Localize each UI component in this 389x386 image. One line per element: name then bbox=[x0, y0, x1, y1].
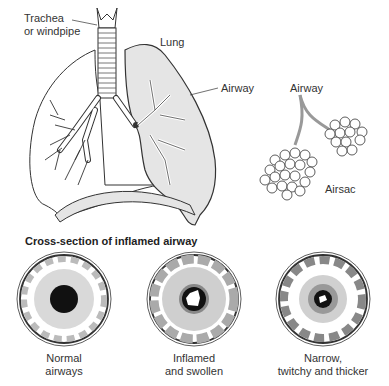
trachea-label-line2: or windpipe bbox=[24, 25, 80, 38]
cross-section-narrow bbox=[276, 252, 370, 346]
cross-section-title: Cross-section of inflamed airway bbox=[25, 235, 197, 247]
caption-inflamed-line2: and swollen bbox=[165, 365, 223, 378]
cross-section-inflamed bbox=[147, 252, 241, 346]
caption-inflamed-line1: Inflamed bbox=[173, 352, 215, 365]
caption-narrow-line1: Narrow, bbox=[304, 352, 342, 365]
caption-narrow-line2: twitchy and thicker bbox=[278, 365, 368, 378]
caption-normal-line2: airways bbox=[45, 365, 82, 378]
trachea-label-line1: Trachea bbox=[24, 12, 64, 25]
airway-label-right: Airway bbox=[290, 82, 323, 95]
caption-normal-line1: Normal bbox=[46, 352, 81, 365]
cross-section-normal bbox=[17, 252, 111, 346]
lung-label: Lung bbox=[160, 36, 184, 49]
airsac-label: Airsac bbox=[325, 183, 356, 196]
airway-label-left: Airway bbox=[221, 82, 254, 95]
